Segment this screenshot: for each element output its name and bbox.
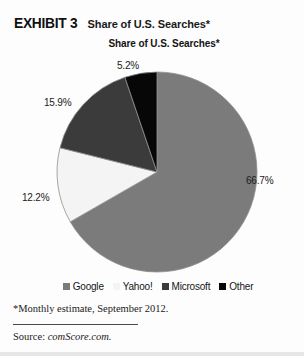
exhibit-title: Share of U.S. Searches* <box>88 18 210 30</box>
legend-item-yahoo[interactable]: Yahoo! <box>113 281 153 292</box>
pie-label-yahoo: 12.2% <box>22 192 49 203</box>
legend-swatch-icon <box>162 283 169 290</box>
legend-swatch-icon <box>63 283 70 290</box>
legend-label: Yahoo! <box>123 281 153 292</box>
pie-chart: 5.2% 15.9% 12.2% 66.7% <box>0 52 304 280</box>
legend-item-google[interactable]: Google <box>63 281 104 292</box>
legend-label: Google <box>73 281 104 292</box>
pie-label-microsoft: 15.9% <box>44 97 71 108</box>
footnote-divider <box>13 324 138 325</box>
pie-slice-group <box>57 72 257 272</box>
chart-legend: GoogleYahoo!MicrosoftOther <box>0 281 304 292</box>
legend-swatch-icon <box>113 283 120 290</box>
exhibit-figure: EXHIBIT 3 Share of U.S. Searches* Share … <box>0 0 304 356</box>
chart-title: Share of U.S. Searches* <box>0 38 304 49</box>
pie-chart-svg <box>0 52 304 280</box>
exhibit-header: EXHIBIT 3 Share of U.S. Searches* <box>14 15 294 31</box>
legend-item-other[interactable]: Other <box>219 281 253 292</box>
source-value: comScore.com. <box>48 331 112 342</box>
legend-item-microsoft[interactable]: Microsoft <box>162 281 211 292</box>
legend-label: Microsoft <box>172 281 211 292</box>
source-label: Source: <box>13 331 45 342</box>
exhibit-number-label: EXHIBIT 3 <box>14 15 77 31</box>
legend-swatch-icon <box>219 283 226 290</box>
footnote-text: *Monthly estimate, September 2012. <box>13 303 168 314</box>
page-bottom-edge <box>0 352 304 356</box>
source-line: Source: comScore.com. <box>13 331 111 342</box>
pie-label-other: 5.2% <box>117 60 139 71</box>
pie-label-google: 66.7% <box>246 175 273 186</box>
legend-label: Other <box>229 281 253 292</box>
